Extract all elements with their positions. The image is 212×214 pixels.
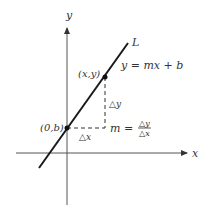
slope-denominator: △x (139, 129, 150, 138)
slope-numerator: △y (139, 119, 150, 128)
point-xy-label: (x,y) (78, 68, 100, 79)
delta-x-label: △x (79, 132, 91, 142)
x-axis-label: x (192, 147, 199, 160)
slope-lhs: m = (110, 122, 133, 135)
equation-label: y = mx + b (120, 59, 183, 72)
delta-y-label: △y (109, 99, 122, 109)
y-axis-label: y (65, 9, 73, 22)
point-intercept-label: (0,b) (40, 122, 64, 133)
point-xy (103, 75, 108, 80)
line-label: L (131, 36, 139, 49)
slope-intercept-diagram: y x L y = mx + b (x,y) (0,b) △y △x m = △… (0, 0, 212, 214)
point-intercept (65, 126, 70, 131)
